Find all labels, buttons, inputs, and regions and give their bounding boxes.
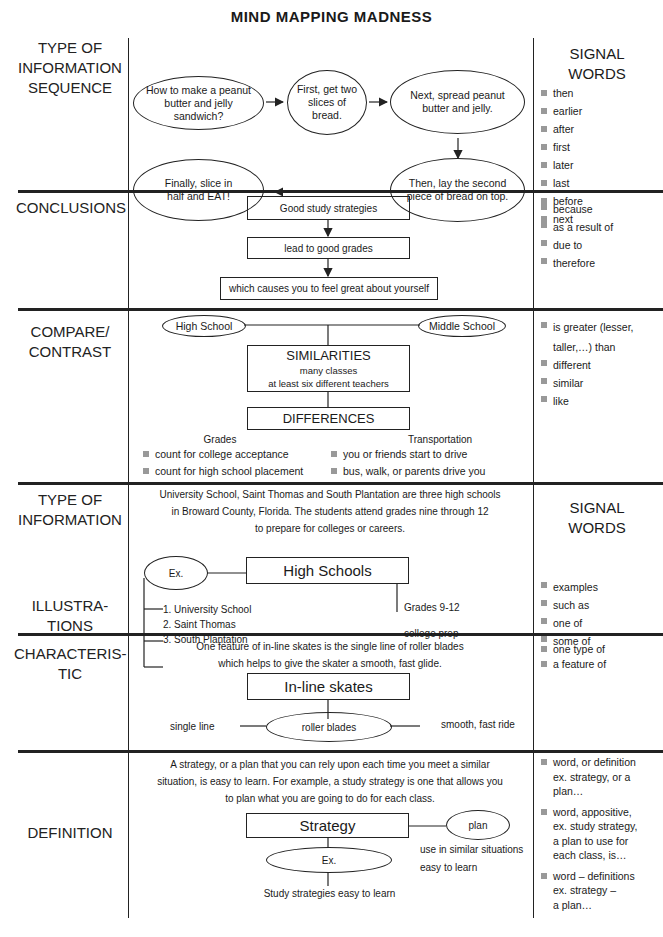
signal-word-continuation: taller,…) than [540, 338, 634, 356]
signal-word: similar [540, 374, 634, 392]
sequence-node-first: First, get two slices of bread. [287, 70, 367, 135]
example-item: 2. Saint Thomas [163, 617, 251, 632]
similarities-box: SIMILARITIES many classes at least six d… [247, 345, 410, 392]
label-line: TYPE OF [14, 38, 126, 58]
grades-item: count for college acceptance [142, 447, 303, 462]
paragraph-line: to prepare for colleges or careers. [135, 522, 525, 536]
paragraph-line: situation, is easy to learn. For example… [135, 775, 525, 789]
header-line: SIGNAL [537, 498, 657, 518]
roller-blades-node: roller blades [266, 712, 392, 742]
compare-node-high-school: High School [162, 315, 246, 337]
signal-words-conclusions: because as a result of due to therefore [540, 200, 613, 272]
label-line: CONTRAST [14, 342, 126, 362]
signal-line: a plan to use for [553, 834, 637, 849]
sequence-node-next: Next, spread peanut butter and jelly. [390, 70, 525, 134]
section-label-illustrations: ILLUSTRA- TIONS [14, 596, 126, 636]
conclusion-box-3: which causes you to feel great about you… [220, 277, 438, 300]
header-line: SIGNAL [537, 44, 657, 64]
similarity-item: at least six different teachers [268, 377, 389, 390]
signal-line: each class, is… [553, 848, 637, 863]
definition-paragraph: A strategy, or a plan that you can rely … [135, 758, 525, 806]
definition-details: use in similar situations easy to learn [420, 841, 523, 877]
definition-ex-node: Ex. [266, 847, 392, 873]
paragraph-line: One feature of in-line skates is the sin… [135, 640, 525, 654]
section-label-definition: DEFINITION [14, 823, 126, 843]
signal-line: word, or definition [553, 755, 637, 770]
signal-word: because [540, 200, 613, 218]
smooth-fast-ride-label: smooth, fast ride [441, 718, 515, 732]
plan-node: plan [446, 810, 510, 840]
signal-words-header: SIGNAL WORDS [537, 44, 657, 84]
similarities-title: SIMILARITIES [286, 348, 371, 364]
compare-node-middle-school: Middle School [418, 315, 506, 337]
similarity-item: many classes [300, 364, 358, 377]
header-line: WORDS [537, 64, 657, 84]
signal-line: word – definitions [553, 869, 637, 884]
left-column-divider [128, 38, 129, 918]
paragraph-line: which helps to give the skater a smooth,… [135, 657, 525, 671]
signal-word: first [540, 140, 583, 154]
paragraph-line: to plan what you are going to do for eac… [135, 792, 525, 806]
signal-words-characteristic: one type of a feature of [540, 642, 606, 672]
illustrations-ex-node: Ex. [144, 556, 208, 590]
signal-word: later [540, 158, 583, 172]
signal-words-compare: is greater (lesser, taller,…) than diffe… [540, 318, 634, 410]
signal-word: one of [540, 614, 598, 632]
signal-line: ex. study strategy, [553, 819, 637, 834]
label-line: TIC [14, 664, 126, 684]
signal-word: such as [540, 596, 598, 614]
high-schools-box: High Schools [246, 557, 409, 584]
conclusion-box-2: lead to good grades [247, 237, 410, 259]
signal-line: a plan… [553, 898, 637, 913]
signal-line: ex. strategy, or a [553, 770, 637, 785]
conclusion-box-1: Good study strategies [247, 196, 410, 220]
signal-word: after [540, 122, 583, 136]
signal-words-header-2: SIGNAL WORDS [537, 498, 657, 538]
section-label-sequence: TYPE OF INFORMATION SEQUENCE [14, 38, 126, 98]
strategy-box: Strategy [246, 813, 409, 838]
signal-words-definition: word, or definition ex. strategy, or a p… [540, 755, 637, 912]
section-divider [18, 308, 663, 311]
detail-item: use in similar situations [420, 841, 523, 859]
signal-word: a feature of [540, 657, 606, 672]
grades-detail: Grades 9-12 [404, 601, 460, 615]
sequence-node-start: How to make a peanut butter and jelly sa… [133, 76, 264, 130]
sequence-node-then: Then, lay the second piece of bread on t… [390, 158, 525, 222]
grades-item: count for high school placement [142, 464, 303, 479]
differences-box: DIFFERENCES [247, 407, 410, 430]
single-line-label: single line [170, 720, 214, 734]
sequence-node-finally: Finally, slice in half and EAT! [133, 159, 264, 221]
signal-word: as a result of [540, 218, 613, 236]
grades-title: Grades [180, 433, 260, 447]
signal-line: word, appositive, [553, 805, 637, 820]
section-label-type-of-information: TYPE OF INFORMATION [14, 490, 126, 530]
grades-list: count for college acceptance count for h… [142, 447, 303, 479]
section-label-conclusions: CONCLUSIONS [16, 198, 136, 218]
signal-word: word, or definition ex. strategy, or a p… [540, 755, 637, 799]
signal-word: different [540, 356, 634, 374]
label-line: TIONS [14, 616, 126, 636]
college-prep-detail: college prep [404, 627, 458, 641]
label-line: SEQUENCE [14, 78, 126, 98]
definition-signal-group: word, or definition ex. strategy, or a p… [540, 755, 637, 912]
signal-word: earlier [540, 104, 583, 118]
signal-word: last [540, 176, 583, 190]
signal-word: examples [540, 578, 598, 596]
signal-line: ex. strategy – [553, 883, 637, 898]
signal-word: therefore [540, 254, 613, 272]
label-line: COMPARE/ [14, 322, 126, 342]
signal-word: word, appositive, ex. study strategy, a … [540, 805, 637, 863]
label-line: ILLUSTRA- [14, 596, 126, 616]
transport-item: you or friends start to drive [330, 447, 485, 462]
label-line: TYPE OF [14, 490, 126, 510]
page-title: MIND MAPPING MADNESS [0, 8, 663, 25]
paragraph-line: A strategy, or a plan that you can rely … [135, 758, 525, 772]
section-divider [18, 750, 663, 753]
characteristic-paragraph: One feature of in-line skates is the sin… [135, 640, 525, 671]
paragraph-line: in Broward County, Florida. The students… [135, 505, 525, 519]
signal-word: is greater (lesser, [540, 318, 634, 336]
signal-word: word – definitions ex. strategy – a plan… [540, 869, 637, 913]
detail-item: easy to learn [420, 859, 523, 877]
transport-title: Transportation [390, 433, 490, 447]
signal-word: due to [540, 236, 613, 254]
